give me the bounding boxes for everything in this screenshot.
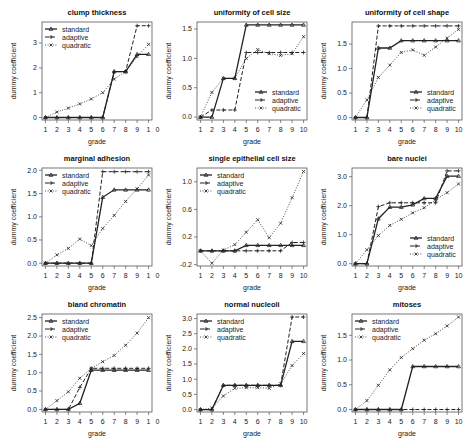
cross-marker [50, 44, 53, 47]
legend-adaptive: adaptive [62, 180, 89, 188]
chart-title: normal nucleoli [224, 300, 279, 309]
x-tick-label: 1 [43, 418, 47, 425]
y-tick-label: 0.0 [337, 406, 347, 413]
plus-marker [434, 24, 438, 28]
x-tick-label: 6 [101, 418, 105, 425]
plus-marker [457, 24, 461, 28]
plus-marker [414, 244, 418, 248]
x-tick-label: 5 [89, 126, 93, 133]
plus-marker [388, 24, 392, 28]
panel-bland-chromatin: bland chromatin0.00.51.01.52.02.51234567… [0, 292, 155, 440]
legend-quadratic: quadratic [372, 334, 401, 342]
plus-marker [359, 327, 363, 331]
y-tick-label: 2.0 [182, 345, 192, 352]
plus-marker [457, 408, 461, 412]
x-tick-label: 5 [89, 418, 93, 425]
y-tick-label: 3.0 [182, 315, 192, 322]
y-tick-label: 0.5 [182, 84, 192, 91]
legend: standardadaptivequadratic [200, 318, 246, 342]
y-tick-label: 1.5 [27, 190, 37, 197]
plus-marker [49, 35, 53, 39]
legend-quadratic: quadratic [427, 251, 456, 259]
plus-marker [422, 201, 426, 205]
legend-quadratic: quadratic [62, 188, 91, 196]
x-tick-label: 7 [267, 272, 271, 279]
x-tick-label: 1 [353, 126, 357, 133]
x-tick-label: 2 [55, 418, 59, 425]
y-tick-label: 1.0 [337, 356, 347, 363]
x-tick-label: 3 [66, 418, 70, 425]
x-tick-label: 8 [124, 126, 128, 133]
y-tick-label: 0.0 [27, 260, 37, 267]
x-tick-label: 1 [43, 126, 47, 133]
x-tick-label: 5 [89, 272, 93, 279]
cross-marker [434, 332, 437, 335]
cross-marker [260, 107, 263, 110]
x-tick-label: 8 [124, 272, 128, 279]
x-tick-label: 1 [147, 418, 151, 425]
x-tick-label: 9 [135, 126, 139, 133]
x-tick-label: 6 [411, 126, 415, 133]
plus-marker [244, 249, 248, 253]
x-tick-label: 8 [434, 126, 438, 133]
series-adaptive [43, 24, 150, 120]
y-tick-label: 1.0 [27, 369, 37, 376]
y-tick-label: 0.0 [27, 406, 37, 413]
series-standard [44, 188, 151, 265]
legend-standard: standard [217, 172, 244, 179]
legend-quadratic: quadratic [217, 188, 246, 196]
x-tick-label: 1 [147, 272, 151, 279]
panel-mitoses: mitoses0.00.51.01.512345678910gradedummy… [310, 292, 465, 440]
cross-marker [78, 102, 81, 105]
legend-standard: standard [427, 235, 454, 242]
y-tick-label: 1.5 [337, 332, 347, 339]
y-axis-label: dummy coefficient [10, 43, 18, 99]
x-tick-label: 8 [279, 126, 283, 133]
x-tick-label: 1 [198, 272, 202, 279]
cross-marker [423, 54, 426, 57]
x-tick-label: 6 [256, 126, 260, 133]
cross-marker [377, 384, 380, 387]
plus-marker [256, 249, 260, 253]
cross-marker [457, 182, 460, 185]
cross-marker [457, 28, 460, 31]
y-tick-label: 2.5 [27, 314, 37, 321]
series-quadratic [44, 43, 150, 119]
cross-marker [291, 364, 294, 367]
cross-marker [55, 399, 58, 402]
x-tick-label: 7 [422, 418, 426, 425]
y-tick-label: 0.6 [182, 206, 192, 213]
plus-marker [101, 170, 105, 174]
legend-quadratic: quadratic [217, 334, 246, 342]
x-tick-label: 9 [290, 126, 294, 133]
legend-quadratic: quadratic [272, 105, 301, 113]
cross-marker [113, 214, 116, 217]
plus-marker [135, 24, 139, 28]
legend-adaptive: adaptive [272, 97, 299, 105]
x-tick-label: 10 [455, 272, 463, 279]
series-adaptive [198, 315, 305, 412]
chart-title: clump thickness [68, 8, 127, 17]
x-tick-label: 3 [376, 272, 380, 279]
y-axis-label: dummy coefficient [165, 189, 173, 245]
panel-clump-thickness: clump thickness012312345678910gradedummy… [0, 0, 155, 148]
x-tick-label: 10 [455, 418, 463, 425]
cross-marker [302, 35, 305, 38]
legend-standard: standard [372, 318, 399, 325]
legend: standardadaptivequadratic [410, 89, 456, 113]
x-tick-label: 2 [210, 418, 214, 425]
cross-marker [400, 356, 403, 359]
cross-marker [233, 243, 236, 246]
x-axis-label: grade [88, 430, 106, 438]
y-axis-label: dummy coefficient [165, 43, 173, 99]
x-tick-label: 7 [267, 418, 271, 425]
legend-adaptive: adaptive [62, 326, 89, 334]
cross-marker [302, 352, 305, 355]
plus-marker [49, 327, 53, 331]
x-tick-label: 9 [445, 418, 449, 425]
cross-marker [67, 247, 70, 250]
y-tick-label: 1.5 [182, 360, 192, 367]
y-axis-label: dummy coefficient [165, 335, 173, 391]
figure-grid: clump thickness012312345678910gradedummy… [0, 0, 466, 445]
plus-marker [147, 170, 151, 174]
